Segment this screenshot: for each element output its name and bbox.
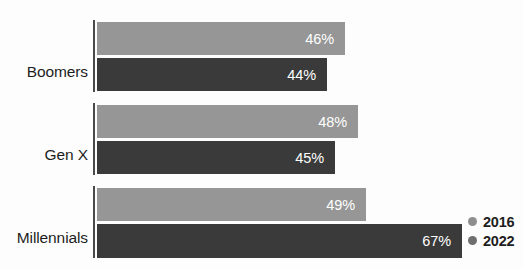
category-label-genx: Gen X — [0, 146, 88, 164]
axis-spine-boomers — [93, 20, 95, 92]
legend-label-2022: 2022 — [483, 233, 514, 249]
bar-genx-2022[interactable]: 45% — [97, 141, 335, 174]
legend: 2016 2022 — [468, 212, 514, 250]
bar-chart: Boomers 46% 44% Gen X 48% 45% Millennial… — [0, 0, 523, 269]
legend-item-2016[interactable]: 2016 — [468, 212, 514, 231]
legend-dot-icon-2016 — [468, 217, 477, 226]
bar-value-genx-2016: 48% — [318, 114, 347, 130]
legend-item-2022[interactable]: 2022 — [468, 231, 514, 250]
bar-value-boomers-2022: 44% — [287, 67, 316, 83]
bar-value-millennials-2016: 49% — [326, 197, 355, 213]
bar-boomers-2022[interactable]: 44% — [97, 58, 327, 91]
bar-value-millennials-2022: 67% — [422, 233, 451, 249]
legend-label-2016: 2016 — [483, 214, 514, 230]
bar-millennials-2016[interactable]: 49% — [97, 188, 366, 221]
bar-value-boomers-2016: 46% — [305, 31, 334, 47]
category-label-boomers: Boomers — [0, 63, 88, 81]
axis-spine-genx — [93, 103, 95, 175]
axis-spine-millennials — [93, 186, 95, 258]
bar-genx-2016[interactable]: 48% — [97, 105, 358, 138]
legend-dot-icon-2022 — [468, 236, 477, 245]
bar-value-genx-2022: 45% — [295, 150, 324, 166]
category-label-millennials: Millennials — [0, 229, 88, 247]
bar-boomers-2016[interactable]: 46% — [97, 22, 345, 55]
bar-millennials-2022[interactable]: 67% — [97, 224, 462, 258]
